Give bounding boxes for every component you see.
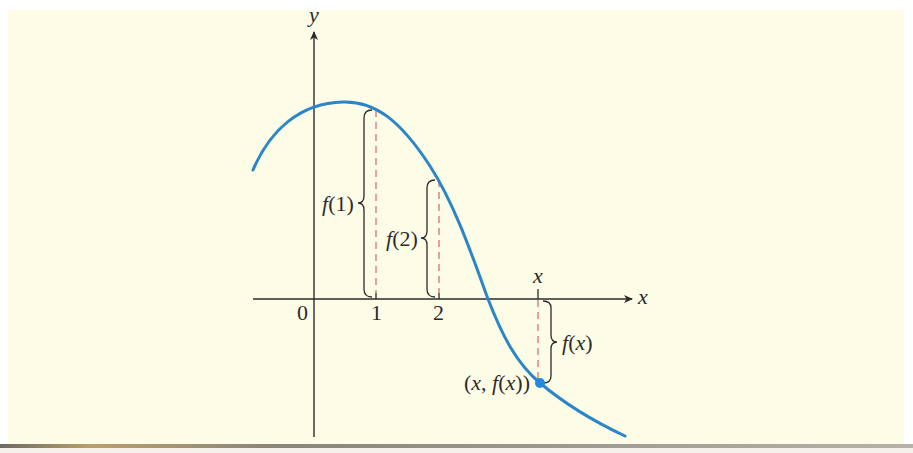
tick-label-2: 2 [433,300,444,325]
brace-fx [543,301,557,383]
tick-label-x: x [532,263,543,288]
label-point: (x, f(x)) [464,370,530,395]
tick-label-1: 1 [371,300,382,325]
page: y x 0 1 2 x f(1) f(2) f(x) (x, f(x)) [0,0,913,453]
label-f1: f(1) [322,191,354,216]
bottom-margin [0,448,913,453]
x-axis-label: x [637,284,648,309]
label-fx: f(x) [562,330,593,355]
label-f2: f(2) [386,226,418,251]
brace-f1 [358,110,372,297]
origin-label: 0 [297,300,308,325]
point-x-fx [535,378,545,388]
y-axis-label: y [307,2,319,27]
function-graph: y x 0 1 2 x f(1) f(2) f(x) (x, f(x)) [0,0,913,453]
brace-f2 [421,180,435,297]
